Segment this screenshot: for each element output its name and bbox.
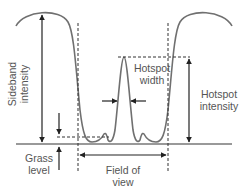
hotspot-intensity-line1: Hotspot	[196, 88, 242, 100]
hotspot-intensity-line2: intensity	[196, 100, 242, 112]
grass-line2: level	[24, 164, 54, 176]
sideband-intensity-label: Sideband intensity	[6, 58, 30, 110]
sideband-label-line2: intensity	[18, 58, 30, 110]
hotspot-width-line2: width	[132, 74, 172, 86]
hotspot-width-label: Hotspot width	[132, 62, 172, 86]
fov-line2: view	[98, 176, 148, 188]
grass-line1: Grass	[24, 152, 54, 164]
hotspot-intensity-label: Hotspot intensity	[196, 88, 242, 112]
field-of-view-label: Field of view	[98, 164, 148, 188]
sideband-label-line1: Sideband	[6, 58, 18, 110]
signal-curve	[16, 13, 232, 142]
fov-line1: Field of	[98, 164, 148, 176]
grass-level-label: Grass level	[24, 152, 54, 176]
hotspot-width-line1: Hotspot	[132, 62, 172, 74]
